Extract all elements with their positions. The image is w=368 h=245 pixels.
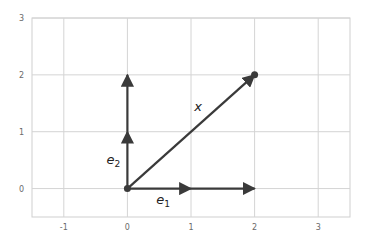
point-origin [124,185,131,192]
y-tick-label: 0 [19,185,24,194]
vector-labels: e1e2x [106,99,202,209]
x-tick-label: 0 [125,223,130,232]
x-tick-label: 3 [316,223,321,232]
y-tick-label: 3 [19,14,24,23]
grid [32,18,350,217]
x-tick-label: 2 [252,223,257,232]
vector-chart: -101230123 e1e2x [0,0,368,245]
label-x: x [193,99,202,114]
label-e1: e1 [156,192,170,209]
x-tick-label: -1 [60,223,68,232]
y-tick-label: 1 [19,128,24,137]
point-x-tip [251,71,258,78]
label-e2: e2 [106,152,120,169]
x-tick-label: 1 [188,223,193,232]
y-tick-label: 2 [19,71,24,80]
